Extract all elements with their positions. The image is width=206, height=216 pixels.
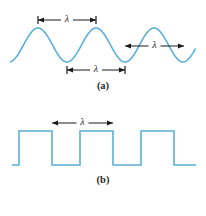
- measurement-trough-to-peak-right: λ: [125, 39, 184, 52]
- lambda-label: λ: [93, 63, 99, 74]
- lambda-label: λ: [64, 13, 70, 24]
- arrowhead-right-icon: [90, 17, 96, 22]
- lambda-label: λ: [79, 116, 85, 127]
- square-waveform: [12, 131, 196, 165]
- arrowhead-right-icon: [107, 120, 113, 125]
- arrowhead-right-icon: [119, 67, 125, 72]
- figure-canvas: λ λ λ (a): [0, 0, 206, 216]
- wavelength-figure: λ λ λ (a): [0, 0, 206, 216]
- measurement-edge-to-edge: λ: [52, 116, 113, 129]
- arrowhead-left-icon: [38, 17, 44, 22]
- panel-a-group: λ λ λ (a): [10, 13, 196, 93]
- panel-b-caption: (b): [97, 174, 110, 186]
- measurement-peak-to-peak-top: λ: [38, 13, 96, 26]
- arrowhead-left-icon: [125, 43, 131, 48]
- lambda-label: λ: [151, 39, 157, 50]
- sine-waveform: [10, 28, 196, 62]
- panel-a-caption: (a): [97, 80, 110, 92]
- arrowhead-left-icon: [67, 67, 73, 72]
- arrowhead-right-icon: [178, 43, 184, 48]
- arrowhead-left-icon: [52, 120, 58, 125]
- panel-b-group: λ (b): [12, 116, 196, 187]
- measurement-trough-to-trough-bottom: λ: [67, 63, 125, 76]
